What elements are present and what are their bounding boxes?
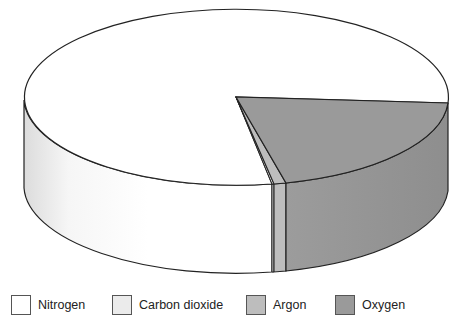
legend-label: Oxygen bbox=[362, 298, 405, 312]
legend-item-oxygen: Oxygen bbox=[335, 294, 405, 316]
legend-item-nitrogen: Nitrogen bbox=[11, 294, 85, 316]
legend-swatch-argon bbox=[246, 295, 266, 315]
legend-label: Nitrogen bbox=[38, 298, 85, 312]
legend-swatch-nitrogen bbox=[11, 295, 31, 315]
argon-side bbox=[274, 183, 286, 272]
legend-item-carbon-dioxide: Carbon dioxide bbox=[112, 294, 223, 316]
legend: Nitrogen Carbon dioxide Argon Oxygen bbox=[0, 282, 461, 322]
pie-chart bbox=[0, 0, 461, 285]
legend-label: Argon bbox=[273, 298, 306, 312]
legend-swatch-carbon-dioxide bbox=[112, 295, 132, 315]
legend-swatch-oxygen bbox=[335, 295, 355, 315]
legend-item-argon: Argon bbox=[246, 294, 306, 316]
legend-label: Carbon dioxide bbox=[139, 298, 223, 312]
